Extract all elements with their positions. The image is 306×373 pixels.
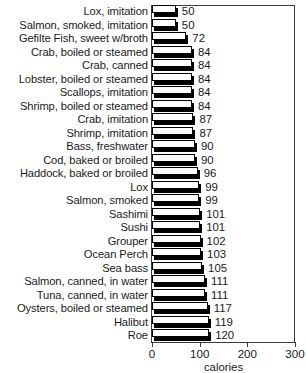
bar-face bbox=[152, 59, 192, 67]
x-tick-label: 200 bbox=[238, 347, 257, 361]
bar bbox=[152, 86, 195, 99]
bar-face bbox=[152, 167, 198, 175]
bar-face bbox=[152, 5, 176, 13]
bar-face bbox=[152, 221, 200, 229]
bar-value-label: 120 bbox=[215, 328, 234, 343]
bar bbox=[152, 235, 204, 248]
bar bbox=[152, 113, 196, 126]
bar bbox=[152, 5, 179, 18]
bar-face bbox=[152, 275, 205, 283]
bar-face bbox=[152, 154, 195, 162]
bar bbox=[152, 329, 212, 342]
x-tick-label: 300 bbox=[285, 347, 304, 361]
bar bbox=[152, 140, 198, 153]
bar-row: Roe120 bbox=[0, 328, 306, 343]
bar bbox=[152, 154, 198, 167]
bar-face bbox=[152, 73, 192, 81]
bar bbox=[152, 100, 195, 113]
bar bbox=[152, 181, 202, 194]
bar-face bbox=[152, 100, 192, 108]
bar bbox=[152, 127, 196, 140]
x-axis-line bbox=[151, 342, 296, 343]
category-label: Roe bbox=[128, 328, 148, 343]
bar-face bbox=[152, 127, 193, 135]
bar bbox=[152, 248, 204, 261]
x-tick-label: 100 bbox=[190, 347, 209, 361]
bar bbox=[152, 32, 189, 45]
bar-face bbox=[152, 46, 192, 54]
bar-face bbox=[152, 316, 209, 324]
bar bbox=[152, 275, 208, 288]
bar bbox=[152, 262, 205, 275]
bar bbox=[152, 46, 195, 59]
bar-face bbox=[152, 86, 192, 94]
bar bbox=[152, 289, 208, 302]
bar-face bbox=[152, 113, 193, 121]
bar-face bbox=[152, 262, 202, 270]
bar-face bbox=[152, 289, 205, 297]
bar-face bbox=[152, 248, 201, 256]
bar bbox=[152, 208, 203, 221]
bar-face bbox=[152, 235, 201, 243]
bar-rows: Lox, imitation50Salmon, smoked, imitatio… bbox=[0, 0, 306, 343]
bar-face bbox=[152, 181, 199, 189]
bar-face bbox=[152, 19, 176, 27]
bar-face bbox=[152, 32, 186, 40]
bar bbox=[152, 73, 195, 86]
bar bbox=[152, 59, 195, 72]
bar-face bbox=[152, 329, 209, 337]
x-tick-label: 0 bbox=[149, 347, 155, 361]
bar-face bbox=[152, 208, 200, 216]
bar bbox=[152, 221, 203, 234]
bar-face bbox=[152, 140, 195, 148]
chart-container: Lox, imitation50Salmon, smoked, imitatio… bbox=[0, 0, 306, 373]
bar bbox=[152, 19, 179, 32]
bar bbox=[152, 167, 201, 180]
bar bbox=[152, 194, 202, 207]
bar-face bbox=[152, 302, 208, 310]
x-axis-title: calories bbox=[151, 361, 296, 373]
bar-face bbox=[152, 194, 199, 202]
bar bbox=[152, 316, 212, 329]
bar bbox=[152, 302, 211, 315]
x-axis: 0100200300 calories bbox=[151, 342, 296, 373]
